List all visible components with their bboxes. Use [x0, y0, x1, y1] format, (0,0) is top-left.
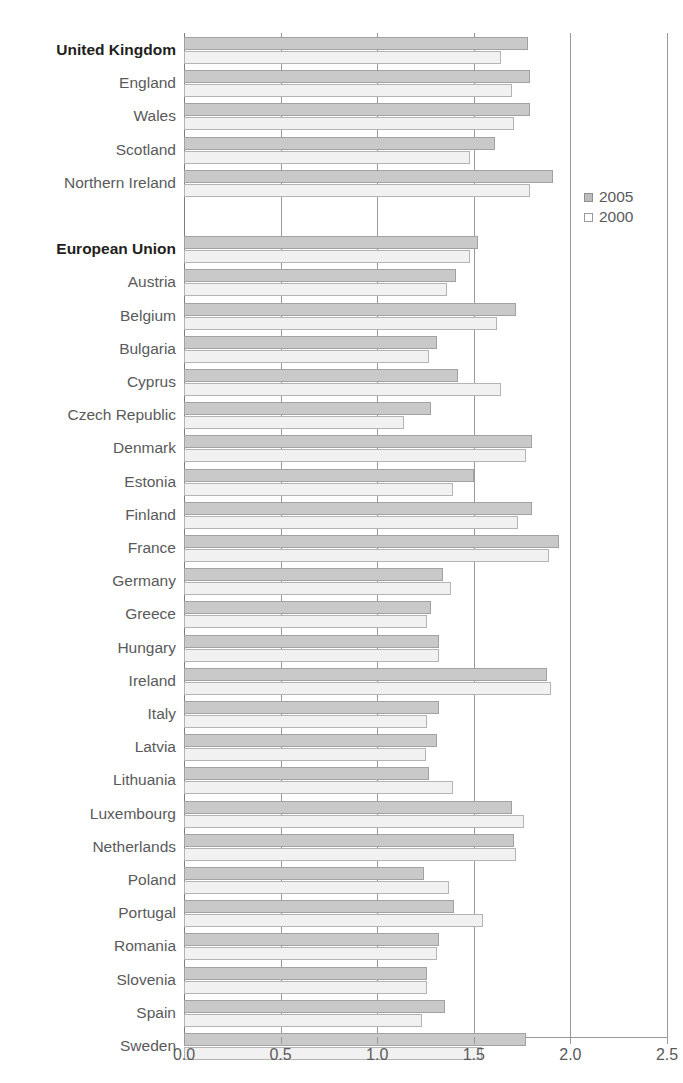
category-label: England	[4, 75, 176, 90]
legend-item-2005: 2005	[584, 187, 633, 207]
legend-label-2005: 2005	[599, 188, 633, 206]
bar-2005	[184, 170, 553, 183]
category-label: Poland	[4, 872, 176, 887]
bar-2005	[184, 137, 495, 150]
bar-2000	[184, 947, 437, 960]
category-label: Italy	[4, 706, 176, 721]
bar-group	[184, 236, 667, 264]
bar-2005	[184, 568, 443, 581]
x-axis-tick-label: 2.5	[656, 1046, 678, 1064]
bar-group	[184, 435, 667, 463]
bar-2005	[184, 103, 530, 116]
bar-group	[184, 767, 667, 795]
bar-group	[184, 801, 667, 829]
bar-2000	[184, 1047, 482, 1060]
x-axis-tick-label: 2.0	[559, 1046, 581, 1064]
bar-2000	[184, 350, 429, 363]
bar-2005	[184, 435, 532, 448]
category-label: Hungary	[4, 640, 176, 655]
bar-group	[184, 601, 667, 629]
bar-2005	[184, 70, 530, 83]
bar-group	[184, 369, 667, 397]
legend: 2005 2000	[584, 187, 633, 227]
bar-2005	[184, 369, 458, 382]
bar-2000	[184, 117, 514, 130]
bar-2000	[184, 51, 501, 64]
bar-2005	[184, 269, 456, 282]
category-label: Portugal	[4, 905, 176, 920]
x-axis-tick-label: 0.5	[269, 1046, 291, 1064]
bar-2000	[184, 781, 453, 794]
x-axis-tick	[667, 1037, 668, 1044]
x-axis-tick	[184, 1037, 185, 1044]
category-label: Scotland	[4, 142, 176, 157]
bar-2000	[184, 84, 512, 97]
category-label: Czech Republic	[4, 407, 176, 422]
category-label: Estonia	[4, 474, 176, 489]
bar-2005	[184, 469, 474, 482]
bar-2000	[184, 649, 439, 662]
bar-2005	[184, 867, 424, 880]
category-label-column: United KingdomEnglandWalesScotlandNorthe…	[0, 33, 176, 1037]
category-label: France	[4, 540, 176, 555]
bar-2000	[184, 184, 530, 197]
x-axis-tick-label: 1.0	[366, 1046, 388, 1064]
bar-2000	[184, 283, 447, 296]
bar-group	[184, 701, 667, 729]
x-axis-tick	[570, 1037, 571, 1044]
bar-2005	[184, 635, 439, 648]
bar-2000	[184, 881, 449, 894]
bar-2000	[184, 483, 453, 496]
bar-2005	[184, 336, 437, 349]
category-label: Romania	[4, 938, 176, 953]
bar-group	[184, 70, 667, 98]
bar-2005	[184, 701, 439, 714]
bar-2000	[184, 449, 526, 462]
plot-area	[184, 33, 667, 1037]
category-label: Germany	[4, 573, 176, 588]
bar-group	[184, 668, 667, 696]
bar-group	[184, 568, 667, 596]
legend-swatch-2000-icon	[584, 213, 593, 222]
category-label: Lithuania	[4, 772, 176, 787]
category-label: Sweden	[4, 1038, 176, 1053]
x-axis-tick-label: 1.5	[463, 1046, 485, 1064]
bar-2005	[184, 767, 429, 780]
category-label: Cyprus	[4, 374, 176, 389]
bar-group	[184, 635, 667, 663]
bar-2000	[184, 317, 497, 330]
bar-2005	[184, 734, 437, 747]
category-label: Luxembourg	[4, 806, 176, 821]
bar-2000	[184, 516, 518, 529]
bar-2000	[184, 682, 551, 695]
category-label: Wales	[4, 108, 176, 123]
bar-2000	[184, 615, 427, 628]
bar-2005	[184, 37, 528, 50]
x-axis-tick	[474, 1037, 475, 1044]
bar-group	[184, 469, 667, 497]
category-label: Bulgaria	[4, 341, 176, 356]
legend-label-2000: 2000	[599, 208, 633, 226]
bar-2000	[184, 250, 470, 263]
bar-2005	[184, 535, 559, 548]
x-axis-tick	[377, 1037, 378, 1044]
legend-swatch-2005-icon	[584, 193, 593, 202]
bar-2000	[184, 151, 470, 164]
category-label: European Union	[4, 241, 176, 256]
bar-group	[184, 269, 667, 297]
bar-2000	[184, 549, 549, 562]
category-label: Slovenia	[4, 972, 176, 987]
x-axis-tick-label: 0.0	[173, 1046, 195, 1064]
bar-2005	[184, 668, 547, 681]
category-label: Finland	[4, 507, 176, 522]
bar-group	[184, 37, 667, 65]
bar-2000	[184, 582, 451, 595]
bar-2000	[184, 815, 524, 828]
bar-group	[184, 137, 667, 165]
bar-2005	[184, 303, 516, 316]
bar-2005	[184, 967, 427, 980]
category-label: Netherlands	[4, 839, 176, 854]
category-label: United Kingdom	[4, 42, 176, 57]
category-label: Ireland	[4, 673, 176, 688]
bar-2005	[184, 601, 431, 614]
